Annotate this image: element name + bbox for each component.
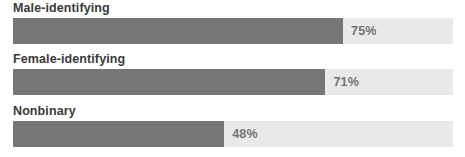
bar-track: 71% xyxy=(13,69,453,95)
bar-track: 75% xyxy=(13,18,453,44)
bar-fill xyxy=(13,18,343,44)
bar-track: 48% xyxy=(13,121,453,147)
bar-value-label: 75% xyxy=(351,18,377,44)
bar-row-label: Female-identifying xyxy=(13,52,453,66)
bar-row-label: Nonbinary xyxy=(13,104,453,118)
bar-value-label: 71% xyxy=(333,69,359,95)
bar-row: Female-identifying 71% xyxy=(13,52,453,95)
bar-row: Nonbinary 48% xyxy=(13,104,453,147)
bar-fill xyxy=(13,121,224,147)
horizontal-bar-chart: Male-identifying 75% Female-identifying … xyxy=(0,0,465,157)
bar-row-label: Male-identifying xyxy=(13,1,453,15)
bar-row: Male-identifying 75% xyxy=(13,1,453,44)
bar-value-label: 48% xyxy=(232,121,258,147)
bar-fill xyxy=(13,69,325,95)
